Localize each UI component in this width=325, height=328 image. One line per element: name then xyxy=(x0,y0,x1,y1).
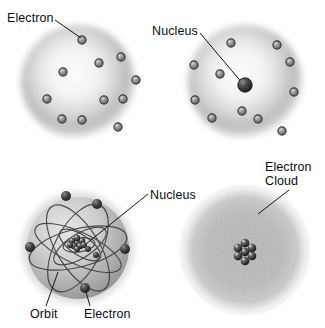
electron-particle xyxy=(278,127,286,135)
label-bottom-left-nucleus: Nucleus xyxy=(150,189,196,203)
nucleon xyxy=(67,242,73,248)
nucleon xyxy=(241,257,250,266)
atomic-models-figure: Electron Nucleus Nucleus Orbit Electron … xyxy=(0,0,325,328)
panel-plum-pudding-model xyxy=(21,20,140,139)
nucleon xyxy=(74,235,80,241)
nucleon xyxy=(248,252,257,261)
nucleon xyxy=(234,252,243,261)
electron-particle xyxy=(254,115,262,123)
electron-particle xyxy=(120,244,130,254)
electron-particle xyxy=(59,68,67,76)
electron-particle xyxy=(216,70,224,78)
electron-particle xyxy=(117,53,125,61)
nucleon xyxy=(248,244,257,253)
electron-particle xyxy=(25,242,35,252)
label-bottom-left-electron: Electron xyxy=(84,308,131,322)
electron-particle xyxy=(85,246,91,252)
nucleon xyxy=(234,244,243,253)
label-top-right-nucleus: Nucleus xyxy=(152,25,198,39)
electron-particle xyxy=(238,107,246,115)
nucleus xyxy=(238,78,252,92)
electron-particle xyxy=(93,252,99,258)
label-line-1: Electron xyxy=(265,160,312,174)
electron-particle xyxy=(78,116,86,124)
electron-particle xyxy=(58,115,66,123)
electron-particle xyxy=(190,61,198,69)
electron-particle xyxy=(273,41,281,49)
label-bottom-right-electron-cloud: Electron Cloud xyxy=(265,161,323,188)
electron-particle xyxy=(43,95,51,103)
nucleon xyxy=(74,246,80,252)
electron-particle xyxy=(80,283,90,293)
electron-particle xyxy=(290,88,298,96)
electron-particle xyxy=(208,114,216,122)
panel-bohr-orbit-model xyxy=(22,191,148,306)
label-bottom-left-orbit: Orbit xyxy=(30,308,58,322)
electron-particle xyxy=(227,39,235,47)
panel-rutherford-nuclear-model xyxy=(188,25,302,139)
electron-particle xyxy=(286,58,294,66)
electron-particle xyxy=(92,199,102,209)
electron-particle xyxy=(132,76,140,84)
nucleon xyxy=(241,239,250,248)
label-top-left-electron: Electron xyxy=(7,12,54,26)
electron-particle xyxy=(61,191,71,201)
label-line-2: Cloud xyxy=(265,174,298,188)
electron-particle xyxy=(119,95,127,103)
electron-particle xyxy=(191,96,199,104)
panel-quantum-cloud-model xyxy=(178,183,312,317)
electron-particle xyxy=(114,123,122,131)
electron-particle xyxy=(100,96,108,104)
electron-particle xyxy=(95,59,103,67)
